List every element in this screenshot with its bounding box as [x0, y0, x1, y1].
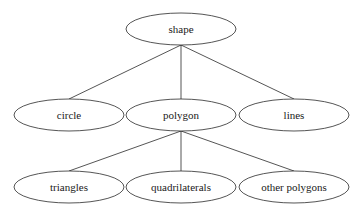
nodes-group: shapecirclepolygonlinestrianglesquadrila…	[14, 13, 349, 203]
node-polygon: polygon	[126, 99, 236, 131]
node-quadrilaterals: quadrilaterals	[126, 171, 236, 203]
node-label: circle	[57, 109, 82, 121]
node-label: lines	[284, 109, 305, 121]
edge-polygon-to-other_polygons	[181, 131, 294, 171]
node-label: polygon	[163, 109, 200, 121]
node-circle: circle	[14, 99, 124, 131]
node-label: triangles	[50, 181, 88, 193]
shape-hierarchy-diagram: shapecirclepolygonlinestrianglesquadrila…	[0, 0, 359, 215]
edge-polygon-to-triangles	[69, 131, 181, 171]
edge-shape-to-circle	[69, 45, 181, 99]
node-other-polygons: other polygons	[239, 171, 349, 203]
edge-shape-to-lines	[181, 45, 294, 99]
node-label: quadrilaterals	[151, 181, 211, 193]
node-shape: shape	[126, 13, 236, 45]
node-label: shape	[168, 23, 193, 35]
node-label: other polygons	[261, 181, 327, 193]
node-triangles: triangles	[14, 171, 124, 203]
node-lines: lines	[239, 99, 349, 131]
